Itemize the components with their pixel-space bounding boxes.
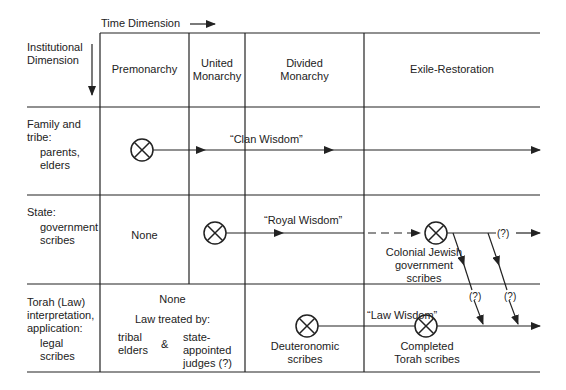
row-state-heading: State: government scribes bbox=[27, 206, 98, 247]
row-family-sub: parents, elders bbox=[27, 146, 81, 172]
ampersand: & bbox=[161, 338, 168, 351]
state-premonarchy-none: None bbox=[100, 229, 189, 242]
row-torah-heading: Torah (Law) interpretation, application:… bbox=[27, 296, 94, 363]
institutional-dimension-label: Institutional Dimension bbox=[27, 41, 83, 67]
tribal-elders-label: tribal elders bbox=[118, 331, 148, 357]
torah-premonarchy-none: None bbox=[100, 293, 245, 306]
time-dimension-label: Time Dimension bbox=[101, 17, 180, 30]
colonial-scribes-label: Colonial Jewish government scribes bbox=[368, 246, 480, 285]
row-torah-sub: legal scribes bbox=[27, 337, 94, 363]
torah-uncertain-marker-1: (?) bbox=[469, 290, 481, 303]
clan-wisdom-origin-node-icon bbox=[131, 139, 153, 161]
period-premonarchy: Premonarchy bbox=[100, 63, 189, 76]
law-treated-by-label: Law treated by: bbox=[100, 313, 245, 326]
royal-wisdom-label: “Royal Wisdom” bbox=[264, 214, 342, 227]
clan-wisdom-label: “Clan Wisdom” bbox=[230, 133, 303, 146]
torah-uncertain-marker-2: (?) bbox=[504, 290, 516, 303]
royal-wisdom-origin-node-icon bbox=[204, 222, 226, 244]
row-family-heading: Family and tribe: parents, elders bbox=[27, 118, 81, 172]
deuteronomic-scribes-label: Deuteronomic scribes bbox=[250, 340, 360, 366]
period-united-monarchy: United Monarchy bbox=[189, 57, 245, 83]
row-state-sub: government scribes bbox=[27, 221, 98, 247]
deuteronomic-node-icon bbox=[296, 315, 318, 337]
state-judges-label: state- appointed judges (?) bbox=[183, 331, 232, 370]
period-exile-restoration: Exile-Restoration bbox=[364, 63, 540, 76]
completed-torah-scribes-label: Completed Torah scribes bbox=[371, 340, 483, 366]
state-uncertain-marker: (?) bbox=[497, 227, 509, 240]
colonial-scribes-node-icon bbox=[425, 222, 447, 244]
law-wisdom-label: “Law Wisdom” bbox=[367, 309, 437, 322]
period-divided-monarchy: Divided Monarchy bbox=[245, 57, 364, 83]
